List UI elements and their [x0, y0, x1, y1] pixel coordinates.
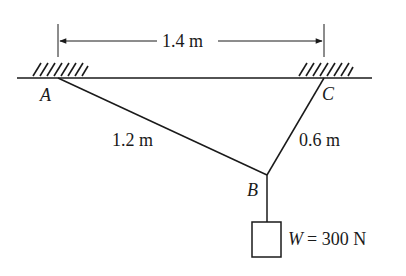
weight-symbol: W: [288, 229, 305, 249]
weight-value: = 300 N: [307, 229, 366, 249]
statics-diagram: 1.4 m A C B 1.2 m 0.6 m W= 300 N: [0, 0, 406, 276]
cable-CB: [267, 78, 324, 175]
length-label-AB: 1.2 m: [112, 130, 153, 150]
point-label-C: C: [322, 84, 335, 104]
point-label-B: B: [247, 180, 258, 200]
dimension-label: 1.4 m: [162, 31, 203, 51]
support-hatch-right: [299, 63, 353, 76]
point-label-A: A: [39, 85, 52, 105]
weight-label: W= 300 N: [288, 229, 366, 249]
weight-box: [252, 222, 281, 257]
length-label-CB: 0.6 m: [299, 130, 340, 150]
support-hatch-left: [33, 63, 88, 76]
cable-AB: [58, 78, 267, 175]
